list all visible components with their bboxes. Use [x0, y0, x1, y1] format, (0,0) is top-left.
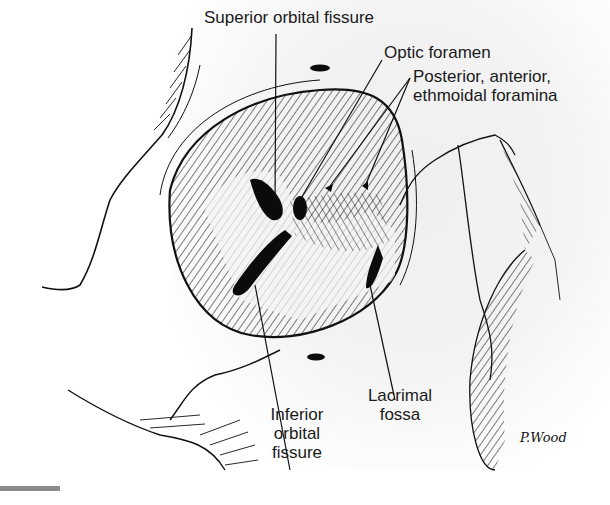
label-ethmoidal-foramina-line2: ethmoidal foramina: [413, 86, 558, 105]
cheek-outline: [68, 350, 280, 470]
label-optic-foramen: Optic foramen: [384, 43, 491, 62]
label-inferior-orbital-fissure-line2: orbital: [262, 424, 332, 443]
label-ethmoidal-foramina-line1: Posterior, anterior,: [413, 67, 551, 86]
scale-bar: [0, 486, 60, 491]
infraorbital-foramen: [307, 354, 325, 361]
supraorbital-notch: [310, 65, 330, 72]
nasal-hatching: [470, 140, 540, 470]
orbit: [160, 80, 416, 337]
label-lacrimal-fossa-line2: fossa: [360, 405, 440, 424]
label-lacrimal-fossa-line1: Lacrimal: [360, 386, 440, 405]
label-superior-orbital-fissure: Superior orbital fissure: [204, 8, 374, 27]
label-inferior-orbital-fissure-line1: Inferior: [262, 405, 332, 424]
label-inferior-orbital-fissure-line3: fissure: [262, 443, 332, 462]
artist-signature: P.Wood: [520, 430, 567, 445]
